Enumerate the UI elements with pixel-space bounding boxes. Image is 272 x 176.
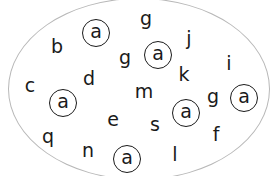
letter-d: d <box>83 69 95 88</box>
letter-n: n <box>82 141 94 160</box>
letter-worksheet: a a a a a a b g g j k i c d m g e s f q … <box>0 0 272 176</box>
letter-e: e <box>107 110 119 129</box>
letter-a: a <box>152 44 164 63</box>
circled-letter-a: a <box>49 89 77 117</box>
letter-a: a <box>238 87 250 106</box>
letter-s: s <box>150 115 160 134</box>
letter-f: f <box>213 125 220 144</box>
letter-g: g <box>119 48 131 67</box>
letter-j: j <box>186 29 191 48</box>
letter-a: a <box>57 92 69 111</box>
letter-a: a <box>180 102 192 121</box>
circled-letter-a: a <box>82 19 110 47</box>
letter-l: l <box>172 145 177 164</box>
letter-i: i <box>226 54 231 73</box>
letter-b: b <box>51 37 63 56</box>
letter-k: k <box>178 65 189 84</box>
letter-q: q <box>42 127 54 146</box>
circled-letter-a: a <box>144 41 172 69</box>
letter-m: m <box>135 82 154 101</box>
letter-g: g <box>207 87 219 106</box>
circled-letter-a: a <box>230 84 258 112</box>
circled-letter-a: a <box>172 99 200 127</box>
letter-a: a <box>90 22 102 41</box>
circled-letter-a: a <box>113 145 141 173</box>
letter-g: g <box>140 9 152 28</box>
letter-c: c <box>25 76 35 95</box>
letter-a: a <box>121 148 133 167</box>
